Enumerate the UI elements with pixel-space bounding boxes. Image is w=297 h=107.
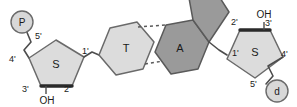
left-phosphate-backbone-bond xyxy=(24,30,31,58)
dna-base-pair-diagram: P S 5' 4' 3' 2' 1' OH T A S xyxy=(0,0,297,107)
thymine-label: T xyxy=(123,42,130,54)
carbon-label-right-1prime: 1' xyxy=(232,48,239,58)
hydrogen-bond-1 xyxy=(138,25,166,27)
carbon-label-left-3prime: 3' xyxy=(22,84,29,94)
structure-canvas: P S 5' 4' 3' 2' 1' OH T A S xyxy=(0,0,297,107)
adenine-label: A xyxy=(176,42,184,54)
carbon-label-left-5prime: 5' xyxy=(35,31,42,41)
carbon-label-right-5prime: 5' xyxy=(250,79,257,89)
sugar-label-right: S xyxy=(251,46,258,58)
carbon-label-left-4prime: 4' xyxy=(9,54,16,64)
hydroxyl-label-left: OH xyxy=(40,95,55,106)
carbon-label-left-2prime: 2' xyxy=(64,84,71,94)
hydroxyl-label-right: OH xyxy=(257,9,272,20)
phosphate-label-left: P xyxy=(19,17,26,28)
phosphate-label-right: d xyxy=(274,86,280,97)
sugar-label-left: S xyxy=(52,58,59,70)
glycosidic-bond-right xyxy=(209,42,227,55)
carbon-label-right-2prime: 2' xyxy=(231,17,238,27)
cropped-text-remnant xyxy=(0,0,297,3)
